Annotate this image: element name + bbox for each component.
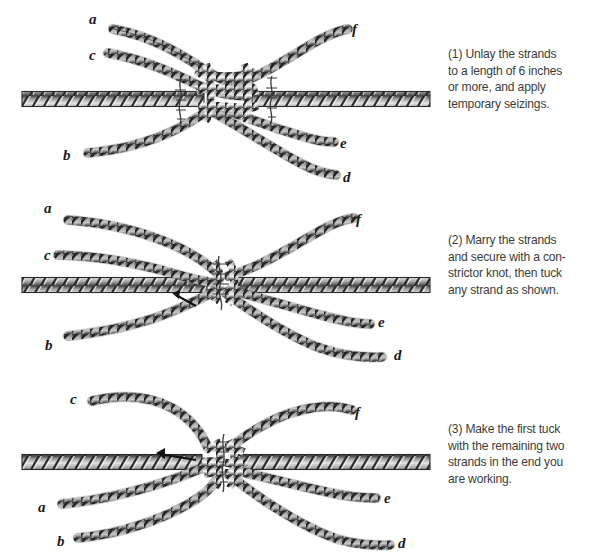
standing-rope-right xyxy=(252,92,430,107)
caption-line: are working. xyxy=(448,471,584,488)
strand-label-e: e xyxy=(384,491,391,506)
strand-label-a: a xyxy=(44,201,52,216)
strand-label-c: c xyxy=(70,392,77,407)
strand-label-f: f xyxy=(356,212,361,227)
strand-label-b: b xyxy=(57,534,65,549)
strand-label-a: a xyxy=(89,12,97,27)
caption-line: strands in the end you xyxy=(448,454,584,471)
strand-label-a: a xyxy=(38,500,46,515)
strand-label-b: b xyxy=(63,148,71,163)
standing-rope-right xyxy=(238,455,430,470)
strand-f xyxy=(228,218,354,276)
caption-line: (3) Make the first tuck xyxy=(448,421,584,438)
caption-line: strictor knot, then tuck xyxy=(448,265,584,282)
strand-label-c: c xyxy=(44,248,51,263)
caption-step-1: (1) Unlay the strands to a length of 6 i… xyxy=(448,46,584,112)
caption-line: temporary seizings. xyxy=(448,96,584,113)
figure-panel-step-2: a c f b e d xyxy=(0,190,440,376)
caption-step-2: (2) Marry the strands and secure with a … xyxy=(448,232,584,298)
caption-line: to a length of 6 inches xyxy=(448,63,584,80)
caption-line: or more, and apply xyxy=(448,79,584,96)
strand-label-d: d xyxy=(343,170,351,185)
illustration-page: a c f b e d xyxy=(0,0,590,558)
figure-panel-step-1: a c f b e d xyxy=(0,0,440,190)
splice-diagram-step-2 xyxy=(0,190,440,376)
strand-label-b: b xyxy=(45,338,53,353)
splice-diagram-step-3 xyxy=(0,376,440,558)
strand-b xyxy=(88,108,212,153)
strand-label-c: c xyxy=(89,48,96,63)
caption-line: and secure with a con- xyxy=(448,249,584,266)
strand-c xyxy=(92,397,208,448)
strand-label-e: e xyxy=(340,136,347,151)
standing-rope-right xyxy=(233,278,430,293)
figure-panel-step-3: c f a b e d xyxy=(0,376,440,558)
standing-rope-left xyxy=(22,92,204,107)
caption-line: (2) Marry the strands xyxy=(448,232,584,249)
strand-b xyxy=(68,290,216,336)
strand-f xyxy=(232,407,352,446)
strand-label-e: e xyxy=(378,315,385,330)
caption-line: with the remaining two xyxy=(448,438,584,455)
caption-line: (1) Unlay the strands xyxy=(448,46,584,63)
caption-line: any strand as shown. xyxy=(448,282,584,299)
strand-label-d: d xyxy=(394,348,402,363)
strand-label-d: d xyxy=(398,536,406,551)
strand-label-f: f xyxy=(352,22,357,37)
caption-step-3: (3) Make the first tuck with the remaini… xyxy=(448,421,584,487)
strand-label-f: f xyxy=(355,405,360,420)
